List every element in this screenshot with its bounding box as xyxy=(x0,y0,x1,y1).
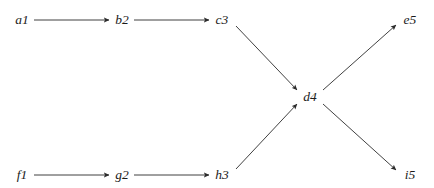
node-label-i5: i5 xyxy=(405,168,416,182)
node-label-c3: c3 xyxy=(216,13,229,27)
node-label-b2: b2 xyxy=(115,13,129,27)
edge-c3-to-d4 xyxy=(236,26,297,90)
edge-d4-to-e5 xyxy=(323,25,396,90)
edge-layer xyxy=(0,0,434,188)
node-label-f1: f1 xyxy=(17,168,28,182)
graph-diagram: a1b2c3d4e5f1g2h3i5 xyxy=(0,0,434,188)
node-label-g2: g2 xyxy=(115,168,129,182)
node-label-d4: d4 xyxy=(303,90,317,104)
edge-h3-to-d4 xyxy=(236,104,297,169)
node-label-h3: h3 xyxy=(215,168,229,182)
node-label-a1: a1 xyxy=(15,13,29,27)
edge-d4-to-i5 xyxy=(323,104,396,170)
node-label-e5: e5 xyxy=(404,13,417,27)
edges-group xyxy=(34,20,396,175)
